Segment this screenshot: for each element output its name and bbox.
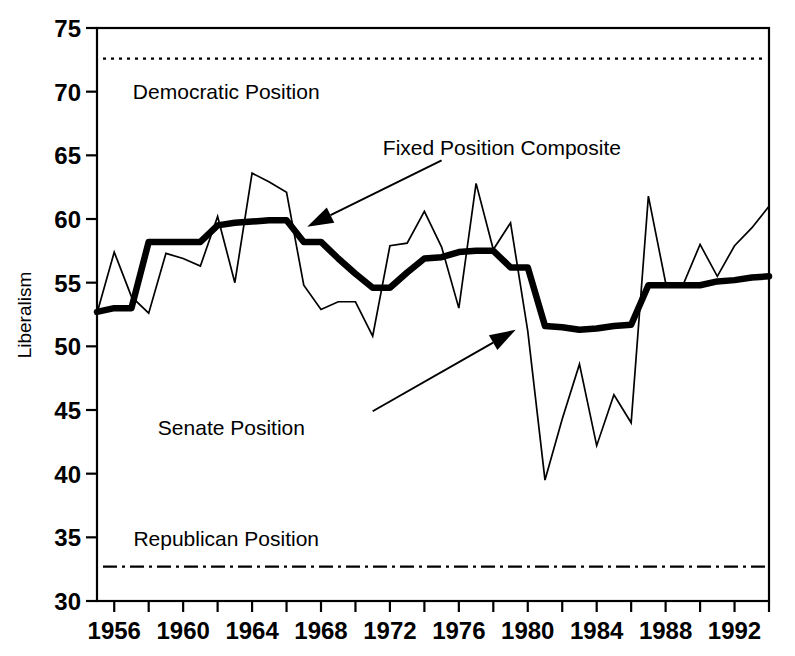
x-tick-label-1980: 1980 <box>501 617 554 644</box>
x-tick-label-1992: 1992 <box>708 617 761 644</box>
x-tick-label-1984: 1984 <box>570 617 624 644</box>
x-tick-label-1988: 1988 <box>639 617 692 644</box>
x-tick-label-1968: 1968 <box>294 617 347 644</box>
chart-container: 30354045505560657075 1956196019641968197… <box>0 0 795 656</box>
annotation-label-senate-position: Senate Position <box>158 416 305 439</box>
x-tick-label-1964: 1964 <box>225 617 279 644</box>
y-tick-label-35: 35 <box>54 524 81 551</box>
y-tick-label-55: 55 <box>54 270 81 297</box>
x-tick-label-1976: 1976 <box>432 617 485 644</box>
y-tick-label-65: 65 <box>54 142 81 169</box>
x-tick-label-1956: 1956 <box>88 617 141 644</box>
x-tick-label-1960: 1960 <box>156 617 209 644</box>
y-axis-title: Liberalism <box>14 272 35 359</box>
y-tick-label-45: 45 <box>54 397 81 424</box>
y-tick-label-30: 30 <box>54 588 81 615</box>
liberalism-line-chart: 30354045505560657075 1956196019641968197… <box>0 0 795 656</box>
chart-background <box>0 0 795 656</box>
label-democratic-position: Democratic Position <box>133 80 320 103</box>
y-tick-label-70: 70 <box>54 79 81 106</box>
y-tick-label-75: 75 <box>54 15 81 42</box>
y-tick-label-60: 60 <box>54 206 81 233</box>
y-tick-label-40: 40 <box>54 461 81 488</box>
label-republican-position: Republican Position <box>133 527 319 550</box>
x-tick-label-1972: 1972 <box>363 617 416 644</box>
y-tick-label-50: 50 <box>54 333 81 360</box>
annotation-label-fixed-position-composite: Fixed Position Composite <box>383 136 621 159</box>
